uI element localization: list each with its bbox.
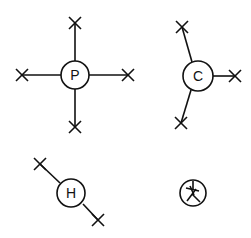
atom-c-group: C — [175, 21, 241, 129]
atom-label: C — [193, 68, 203, 84]
atom-4-group — [180, 180, 206, 206]
atom-p-group: P — [16, 17, 134, 133]
atom-label: P — [70, 67, 79, 83]
cross-marker — [176, 21, 188, 33]
cross-marker — [175, 117, 187, 129]
cross-marker — [34, 158, 46, 170]
atom-h-group: H — [34, 158, 104, 226]
cross-marker — [92, 214, 104, 226]
valence-diagram: P C H — [0, 0, 251, 238]
atom-label: H — [66, 185, 76, 201]
